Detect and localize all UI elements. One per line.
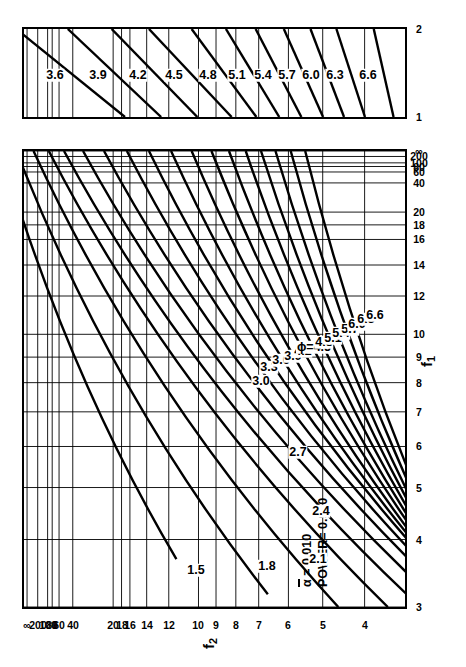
y-tick-7: 7 [256,620,262,631]
lower-phi-curve-label-4.2: 4.2 [129,69,148,82]
x-tick-3: 3 [416,602,422,613]
x-tick-∞: ∞ [415,146,423,157]
phi-curve-label-6.6: 6.6 [365,309,384,322]
x-tick-9: 9 [416,352,422,363]
y-tick-10: 10 [193,620,205,631]
lower-phi-curve-label-6: 6.0 [302,69,321,82]
lower-x-tick-2: 2 [416,24,422,35]
x-tick-8: 8 [416,377,422,388]
phi-curve-label-3: 3.0 [252,375,271,388]
x-tick-16: 16 [413,234,425,245]
x-tick-4: 4 [416,534,422,545]
alpha-symbol: α [300,579,314,587]
phi-curve-label-1.5: 1.5 [187,564,206,577]
x-tick-7: 7 [416,407,422,418]
lower-x-tick-1: 1 [416,112,422,123]
y-tick-8: 8 [233,620,239,631]
main-chart-panel [22,149,407,609]
x-tick-20: 20 [413,207,425,218]
x-tick-18: 18 [413,220,425,231]
x-tick-6: 6 [416,441,422,452]
y-tick-12: 12 [163,620,175,631]
y-axis-title: f2 [200,638,219,649]
phi-curve-label-2.4: 2.4 [312,505,331,518]
y-tick-20: 20 [107,620,119,631]
lower-phi-curve-label-3.9: 3.9 [89,69,108,82]
y-tick-14: 14 [141,620,153,631]
rotated-figure-container: α = 0.010 POWER= 0.990 f1 f2 34567891012… [0,0,466,667]
lower-phi-curve-label-5.7: 5.7 [278,69,297,82]
y-axis-title-text: f [200,644,217,649]
x-axis-title-text: f [418,362,435,367]
lower-phi-curve-label-6.6: 6.6 [358,69,377,82]
phi-curve-label-1.8: 1.8 [257,559,276,572]
main-chart-plot [24,151,405,607]
lower-phi-curve-label-4.8: 4.8 [198,69,217,82]
x-tick-10: 10 [413,329,425,340]
y-tick-5: 5 [320,620,326,631]
y-tick-∞: ∞ [23,620,31,631]
phi-curve-label-2.7: 2.7 [288,445,307,458]
y-axis-title-subscript: 2 [207,638,219,644]
phi-curve-label-2.1: 2.1 [308,553,327,566]
y-tick-9: 9 [213,620,219,631]
lower-phi-curve-label-4.5: 4.5 [165,69,184,82]
x-tick-14: 14 [413,260,425,271]
x-tick-40: 40 [413,178,425,189]
x-tick-5: 5 [416,482,422,493]
lower-phi-curve-label-3.6: 3.6 [45,69,64,82]
y-tick-6: 6 [285,620,291,631]
y-tick-40: 40 [67,620,79,631]
lower-phi-curve-label-5.4: 5.4 [253,69,272,82]
lower-phi-curve-label-5.1: 5.1 [227,69,246,82]
x-tick-12: 12 [413,291,425,302]
y-tick-200: 200 [29,620,47,631]
figure-page: α = 0.010 POWER= 0.990 f1 f2 34567891012… [0,0,466,667]
lower-phi-curve-label-6.3: 6.3 [325,69,344,82]
y-tick-4: 4 [362,620,368,631]
x-axis-title-subscript: 1 [425,356,437,362]
